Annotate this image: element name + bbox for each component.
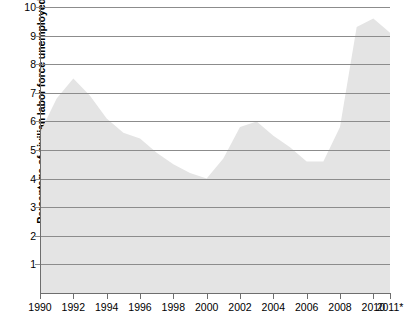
x-tick-mark-2011* [390,294,391,299]
x-tick-label-1996: 1996 [128,301,151,313]
x-tick-label-2000: 2000 [195,301,218,313]
x-tick-mark-2008 [340,294,341,299]
x-tick-label-1998: 1998 [162,301,185,313]
x-tick-label-2004: 2004 [262,301,285,313]
x-tick-label-2011*: 2011* [377,301,404,313]
x-axis-line [40,293,391,294]
x-tick-mark-2006 [307,294,308,299]
x-tick-mark-2004 [273,294,274,299]
x-tick-mark-2010 [373,294,374,299]
x-tick-mark-1992 [73,294,74,299]
gridline-3: 3 [40,207,390,208]
gridline-5: 5 [40,150,390,151]
gridline-4: 4 [40,179,390,180]
x-tick-mark-2002 [240,294,241,299]
x-tick-label-1992: 1992 [62,301,85,313]
y-axis-line [40,7,41,294]
gridline-10: 10 [40,7,390,8]
x-tick-mark-1996 [140,294,141,299]
x-tick-label-1990: 1990 [28,301,51,313]
x-tick-label-2006: 2006 [295,301,318,313]
x-tick-label-2008: 2008 [328,301,351,313]
gridline-7: 7 [40,93,390,94]
unemployment-area-chart: Percentage of civilian labor force unemp… [0,0,414,314]
x-tick-mark-1994 [107,294,108,299]
gridline-6: 6 [40,121,390,122]
gridline-8: 8 [40,64,390,65]
x-tick-mark-2000 [207,294,208,299]
x-tick-label-1994: 1994 [95,301,118,313]
x-tick-mark-1998 [173,294,174,299]
plot-area: 10987654321 1990199219941996199820002002… [40,7,390,293]
x-tick-label-2002: 2002 [228,301,251,313]
gridline-1: 1 [40,264,390,265]
gridline-9: 9 [40,36,390,37]
x-tick-mark-1990 [40,294,41,299]
gridline-2: 2 [40,236,390,237]
